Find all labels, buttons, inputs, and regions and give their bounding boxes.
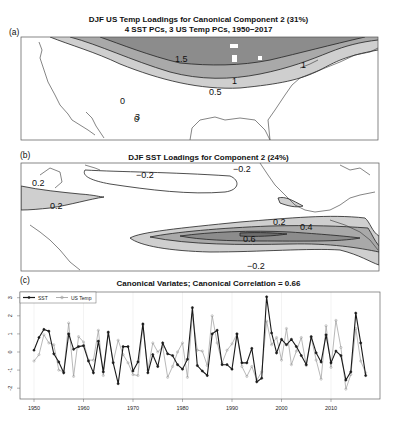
y-tick-label: -2 [7, 386, 13, 391]
y-tick-label: -1 [7, 368, 13, 373]
chart-legend: SST US Temp [20, 292, 96, 303]
x-tick-label: 1990 [226, 405, 238, 411]
x-tick-label: 2010 [325, 405, 337, 411]
sst-series [34, 297, 366, 384]
legend-us-temp: US Temp [71, 295, 92, 301]
legend-sst: SST [38, 295, 48, 301]
x-tick-label: 2000 [275, 405, 287, 411]
canonical-variates-chart: 1950196019701980199020002010-2-10123 SST… [0, 0, 397, 426]
y-tick-label: 3 [7, 296, 13, 299]
y-tick-label: 2 [7, 314, 13, 317]
y-tick-label: 0 [7, 350, 13, 353]
x-tick-label: 1980 [176, 405, 188, 411]
x-tick-label: 1950 [28, 405, 40, 411]
x-tick-label: 1960 [77, 405, 89, 411]
y-tick-label: 1 [7, 332, 13, 335]
x-tick-label: 1970 [127, 405, 139, 411]
